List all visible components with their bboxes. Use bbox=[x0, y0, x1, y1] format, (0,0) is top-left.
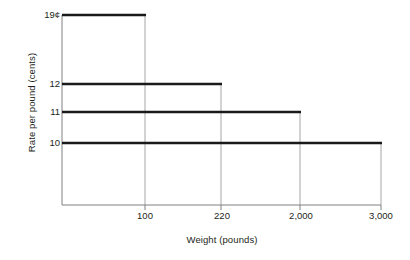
plot-area bbox=[0, 0, 410, 260]
gridlines bbox=[145, 15, 381, 205]
step-line-series bbox=[62, 15, 382, 143]
step-chart-figure: Rate per pound (cents) 19¢ 12 11 10 100 … bbox=[0, 0, 410, 260]
x-axis-ticks bbox=[145, 205, 381, 210]
